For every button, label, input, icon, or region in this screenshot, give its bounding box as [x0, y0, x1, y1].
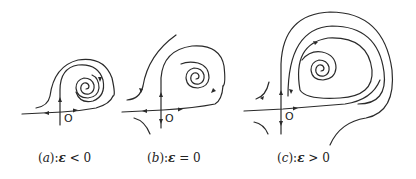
panel-b-arrow-up — [159, 92, 163, 97]
caption-a-epsilon: ε — [59, 151, 66, 165]
panel-c-outer-loop — [281, 12, 392, 145]
panel-b-caption: (b):ε = 0 — [147, 152, 201, 164]
caption-b-suffix: ): — [159, 151, 168, 165]
panel-b-arrow-down — [159, 119, 163, 124]
panel-c-arrow-up — [279, 90, 283, 95]
panel-a-outer-trajectory — [36, 59, 114, 108]
panel-c-inner-loop — [299, 38, 373, 98]
caption-a-suffix: ): — [50, 151, 59, 165]
panel-c-arrow-down — [279, 121, 283, 126]
panel-c-caption: (c):ε > 0 — [277, 152, 330, 164]
caption-a-relation: < 0 — [66, 151, 91, 165]
panel-b-arrow-inner — [211, 88, 216, 93]
caption-c-suffix: ): — [288, 151, 297, 165]
panel-b-origin-label: O — [165, 113, 174, 124]
caption-c-relation: > 0 — [304, 151, 329, 165]
caption-b-relation: = 0 — [175, 151, 200, 165]
panel-c-horizontal-separatrix — [244, 80, 380, 111]
panel-b-outer-trajectory — [127, 35, 176, 100]
caption-a-letter: a — [43, 151, 50, 165]
panel-a-arrow-up — [58, 97, 62, 102]
panel-a-caption: (a):ε < 0 — [38, 152, 91, 164]
panel-b-horizontal-separatrix — [122, 86, 223, 112]
panel-c-upper-left-hyperbola — [256, 82, 269, 99]
panel-a-spiral — [76, 75, 99, 98]
panel-c-diagram — [244, 12, 392, 145]
panel-c-lower-left-hyperbola — [254, 122, 268, 134]
panel-a-arrow-inner — [98, 77, 102, 82]
panel-b-lower-hyperbola — [134, 118, 150, 134]
panel-c-arrow-loop — [289, 89, 293, 94]
panel-c-origin-label: O — [285, 111, 294, 122]
panel-c-spiral — [302, 52, 336, 80]
panel-b-spiral — [181, 62, 209, 88]
phase-portrait-figure: O O O (a):ε < 0 (b):ε = 0 (c):ε > 0 — [0, 0, 416, 179]
panel-a-origin-label: O — [64, 113, 73, 124]
panel-b-arrow-left — [142, 109, 147, 113]
panel-a-arrow-left — [44, 111, 49, 115]
